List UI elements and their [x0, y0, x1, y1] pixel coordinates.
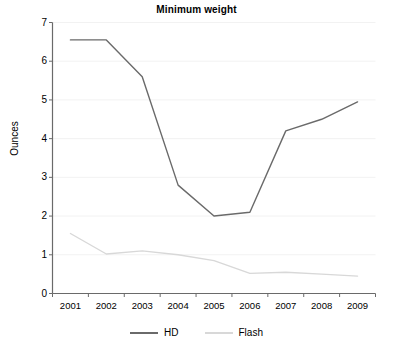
legend-label: HD [164, 327, 178, 338]
legend-label: Flash [239, 327, 263, 338]
legend-item-hd[interactable]: HD [130, 327, 178, 338]
axis-lines [53, 23, 376, 294]
legend-item-flash[interactable]: Flash [205, 327, 263, 338]
chart-legend: HDFlash [0, 327, 393, 338]
series-line-hd [70, 40, 357, 216]
data-series [70, 40, 357, 276]
plot-area [0, 0, 393, 348]
gridlines [53, 23, 376, 255]
chart-container: Minimum weight Ounces 01234567 200120022… [0, 0, 393, 348]
legend-swatch-icon [130, 332, 158, 334]
legend-swatch-icon [205, 332, 233, 334]
